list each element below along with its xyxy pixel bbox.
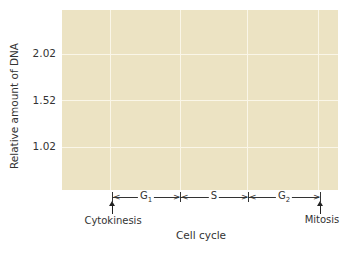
phase-annotation-row: < > < > < > G1 S G2 [0, 190, 353, 204]
x-axis-label: Cell cycle [176, 229, 226, 241]
y-tick-1-52: 1.52 [26, 94, 56, 106]
mitosis-label: Mitosis [305, 214, 340, 225]
y-axis-label: Relative amount of DNA [8, 36, 20, 176]
arrow-right-icon: > [173, 193, 181, 202]
y-tick-2-02: 2.02 [26, 47, 56, 59]
arrow-left-icon: < [181, 193, 189, 202]
mitosis-arrow-icon [320, 205, 321, 214]
arrow-right-icon: > [241, 193, 249, 202]
cytokinesis-label: Cytokinesis [84, 215, 141, 226]
gridline-horizontal [62, 100, 338, 101]
y-tick-1-02: 1.02 [26, 140, 56, 152]
gridline-horizontal [62, 147, 338, 148]
cytokinesis-arrow-icon [112, 205, 113, 214]
arrow-left-icon: < [249, 193, 257, 202]
phase-label-g1: G1 [138, 190, 154, 204]
phase-label-s: S [209, 190, 219, 201]
gridline-horizontal [62, 54, 338, 55]
plot-area [62, 10, 338, 190]
phase-label-g2: G2 [276, 190, 292, 204]
